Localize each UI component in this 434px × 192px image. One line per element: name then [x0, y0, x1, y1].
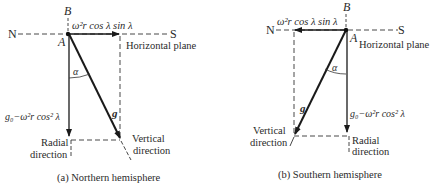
vertical-direction-label-1: Vertical	[132, 133, 165, 144]
horizontal-component-label: ω²r cos λ sin λ	[277, 16, 338, 27]
radial-component-label: g₀−ω²r cos² λ	[5, 111, 61, 122]
radial-direction-label-2: direction	[352, 146, 390, 157]
g-vector-arrow	[69, 34, 120, 138]
vertical-direction-label-2: direction	[133, 145, 171, 156]
g-vector-label: g	[111, 107, 118, 119]
angle-label: α	[332, 62, 338, 73]
label-a: A	[57, 35, 66, 49]
g-vector-arrow	[295, 30, 346, 134]
diagram-canvas: B N S A ω²r cos λ sin λ Horizontal plane…	[0, 0, 434, 192]
horizontal-plane-label: Horizontal plane	[359, 39, 430, 50]
label-n: N	[8, 27, 17, 41]
vertical-direction-label-1: Vertical	[253, 125, 286, 136]
radial-component-label: g₀−ω²r cos² λ	[350, 108, 406, 119]
point-a	[344, 28, 348, 32]
radial-direction-label-1: Radial	[41, 137, 68, 148]
label-b: B	[64, 4, 72, 18]
panel-northern-hemisphere: B N S A ω²r cos λ sin λ Horizontal plane…	[5, 4, 197, 184]
g-vector-label: g	[299, 102, 306, 114]
caption-southern: (b) Southern hemisphere	[278, 169, 382, 181]
caption-northern: (a) Northern hemisphere	[57, 172, 161, 184]
panel-southern-hemisphere: B N S A ω²r cos λ sin λ Horizontal plane…	[250, 0, 430, 181]
label-s: S	[398, 23, 405, 37]
vertical-direction-line	[121, 141, 131, 160]
radial-direction-label-2: direction	[30, 149, 68, 160]
point-a	[66, 32, 70, 36]
label-n: N	[266, 23, 275, 37]
label-b: B	[343, 0, 351, 14]
horizontal-plane-label: Horizontal plane	[126, 40, 197, 51]
label-a: A	[349, 31, 358, 45]
angle-label: α	[73, 66, 79, 77]
label-s: S	[170, 27, 177, 41]
radial-direction-label-1: Radial	[352, 135, 379, 146]
horizontal-component-label: ω²r cos λ sin λ	[72, 20, 133, 31]
vertical-direction-label-2: direction	[250, 137, 288, 148]
vertical-direction-line	[290, 137, 294, 146]
